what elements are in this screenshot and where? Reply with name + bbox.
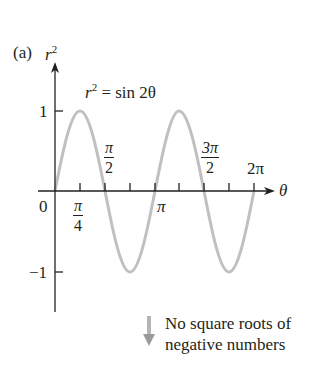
x-tick-pi-over-4: π 4 bbox=[73, 198, 83, 234]
curve-label-sup: 2 bbox=[92, 81, 98, 93]
y-tick-neg1: −1 bbox=[29, 264, 47, 281]
x-tick-2pi: 2π bbox=[247, 160, 264, 177]
x-tick-0: 0 bbox=[39, 198, 48, 215]
note-line-2: negative numbers bbox=[165, 334, 291, 355]
x-tick-pi: π bbox=[157, 198, 166, 215]
y-axis-label-sup: 2 bbox=[52, 43, 58, 55]
x-tick-3pi-over-2-num: 3π bbox=[201, 140, 219, 158]
down-arrow-icon bbox=[143, 334, 155, 346]
x-tick-pi-over-2-num: π bbox=[104, 140, 114, 158]
note-arrow-shaft bbox=[147, 316, 151, 336]
x-tick-pi-over-4-num: π bbox=[73, 198, 83, 216]
x-tick-pi-over-4-den: 4 bbox=[74, 216, 82, 234]
x-tick-3pi-over-2: 3π 2 bbox=[201, 140, 219, 176]
curve-label-rhs: = sin 2θ bbox=[101, 83, 156, 102]
note-text: No square roots of negative numbers bbox=[165, 313, 291, 355]
x-tick-pi-over-2: π 2 bbox=[104, 140, 114, 176]
x-tick-pi-over-2-den: 2 bbox=[105, 158, 113, 176]
curve-label: r2 = sin 2θ bbox=[85, 82, 156, 101]
y-axis-label: r2 bbox=[45, 44, 57, 63]
curve-label-lhs: r bbox=[85, 83, 92, 102]
y-tick-1: 1 bbox=[39, 103, 48, 120]
y-axis-label-base: r bbox=[45, 45, 52, 64]
panel-label: (a) bbox=[13, 44, 32, 61]
x-axis-label: θ bbox=[279, 182, 287, 199]
note-line-1: No square roots of bbox=[165, 313, 291, 334]
x-tick-3pi-over-2-den: 2 bbox=[206, 158, 214, 176]
